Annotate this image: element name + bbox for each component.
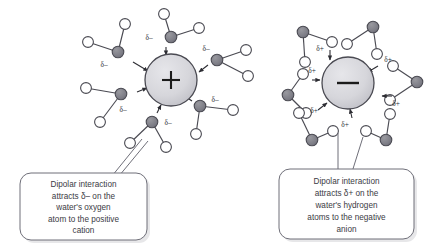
callout-line: attracts δ– on the bbox=[52, 192, 116, 201]
callout-line: Dipolar interaction bbox=[314, 177, 380, 186]
hydrogen-atom bbox=[161, 142, 172, 153]
oxygen-atom bbox=[112, 46, 124, 58]
hydrogen-atom bbox=[125, 138, 136, 149]
hydrogen-atom bbox=[298, 69, 309, 80]
hydrogen-atom bbox=[83, 37, 94, 48]
hydrogen-atom bbox=[159, 9, 170, 20]
oxygen-atom bbox=[146, 116, 158, 128]
delta-label: δ+ bbox=[308, 66, 316, 75]
delta-label: δ+ bbox=[310, 106, 318, 115]
oxygen-atom bbox=[282, 89, 294, 101]
hydrogen-atom bbox=[243, 71, 254, 82]
callout-line: Dipolar interaction bbox=[51, 180, 117, 189]
delta-label: δ– bbox=[100, 60, 107, 69]
delta-label: δ+ bbox=[392, 99, 400, 108]
oxygen-atom bbox=[194, 100, 206, 112]
ion-dipole-diagram: δ– δ– δ– δ– δ– δ– Dipolar interaction at… bbox=[0, 0, 442, 247]
hydrogen-atom bbox=[120, 19, 131, 30]
hydrogen-atom bbox=[191, 129, 202, 140]
callout-line: atom to the positive bbox=[48, 215, 119, 224]
hydrogen-atom bbox=[385, 109, 396, 120]
hydrogen-atom bbox=[328, 126, 339, 137]
hydrogen-atom bbox=[241, 45, 252, 56]
oxygen-atom bbox=[165, 31, 177, 43]
oxygen-atom bbox=[306, 134, 318, 146]
hydrogen-atom bbox=[228, 105, 239, 116]
oxygen-atom bbox=[115, 88, 127, 100]
callout-line: water's hydrogen bbox=[314, 201, 378, 210]
oxygen-atom bbox=[297, 26, 309, 38]
hydrogen-atom bbox=[95, 117, 106, 128]
oxygen-atom bbox=[367, 21, 379, 33]
oxygen-atom bbox=[211, 54, 223, 66]
callout-line: attracts δ+ on the bbox=[315, 189, 379, 198]
callout-line: cation bbox=[73, 226, 95, 235]
delta-label: δ– bbox=[202, 44, 209, 53]
delta-label: δ– bbox=[145, 33, 152, 42]
delta-label: δ– bbox=[119, 105, 126, 114]
delta-label: δ+ bbox=[384, 55, 392, 64]
delta-label: δ+ bbox=[341, 120, 349, 129]
delta-label: δ– bbox=[211, 95, 218, 104]
hydrogen-atom bbox=[342, 39, 353, 50]
oxygen-atom bbox=[411, 76, 423, 88]
callout-line: anion bbox=[336, 225, 356, 234]
delta-label: δ– bbox=[164, 118, 171, 127]
hydrogen-atom bbox=[294, 108, 305, 119]
hydrogen-atom bbox=[194, 23, 205, 34]
hydrogen-atom bbox=[81, 83, 92, 94]
callout-line: atoms to the negative bbox=[307, 213, 386, 222]
hydrogen-atom bbox=[361, 126, 372, 137]
callout-line: water's oxygen bbox=[55, 203, 111, 212]
hydrogen-atom bbox=[327, 37, 338, 48]
hydrogen-atom bbox=[372, 49, 383, 60]
delta-label: δ+ bbox=[316, 44, 324, 53]
diagram-canvas: δ– δ– δ– δ– δ– δ– Dipolar interaction at… bbox=[0, 0, 442, 247]
oxygen-atom bbox=[380, 134, 392, 146]
